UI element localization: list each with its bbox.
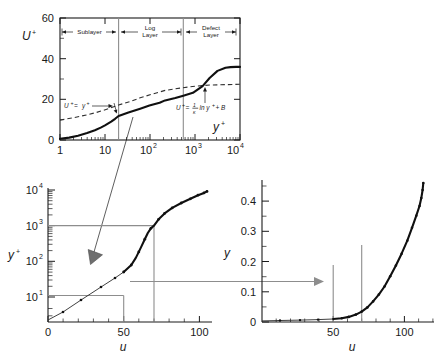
svg-text:10: 10 bbox=[26, 255, 38, 267]
svg-text:+: + bbox=[87, 100, 90, 106]
bl-ytick-label-10e1: 10 1 bbox=[26, 289, 43, 303]
bl-x-axis-label: u bbox=[120, 340, 127, 354]
svg-text:1: 1 bbox=[57, 144, 63, 156]
svg-text:4: 4 bbox=[39, 182, 43, 189]
svg-text:+ B: + B bbox=[216, 104, 227, 111]
top-ytick-60: 60 bbox=[42, 12, 54, 24]
svg-text:10: 10 bbox=[140, 144, 152, 156]
region-label-defect-layer-line2: Layer bbox=[203, 31, 218, 38]
top-panel-group: 0 20 40 60 U + bbox=[22, 12, 244, 156]
br-x-axis-label: u bbox=[349, 340, 356, 354]
bottom-right-panel-group: 0 0.1 0.2 0.3 0.4 y 50 100 u bbox=[223, 180, 434, 354]
svg-text:10: 10 bbox=[99, 144, 111, 156]
annotation-viscous-sublayer: U + = y + bbox=[64, 100, 117, 114]
region-label-log-layer-line2: Layer bbox=[142, 31, 157, 38]
top-y-axis-sup: + bbox=[32, 29, 36, 36]
br-profile-curve bbox=[333, 183, 423, 319]
br-ytick-02: 0.2 bbox=[241, 256, 256, 268]
region-label-defect-layer-line1: Defect bbox=[202, 24, 220, 31]
top-x-axis-letter: y bbox=[212, 120, 220, 134]
region-label-sublayer: Sublayer bbox=[77, 28, 101, 35]
svg-text:=: = bbox=[74, 102, 78, 109]
region-label-log-layer-line1: Log bbox=[145, 24, 156, 31]
top-xtick-label-100: 10 2 bbox=[140, 142, 157, 156]
br-y-axis-label: y bbox=[223, 246, 231, 260]
bl-y-axis-label: y + bbox=[7, 248, 20, 262]
top-y-axis-letter: U bbox=[22, 29, 31, 43]
bl-y-axis-letter: y bbox=[7, 248, 15, 262]
top-xtick-label-1: 1 bbox=[57, 144, 63, 156]
svg-text:1: 1 bbox=[39, 289, 43, 296]
br-xtick-100: 100 bbox=[395, 326, 413, 338]
bl-xtick-0: 0 bbox=[45, 326, 51, 338]
bl-y-axis-sup: + bbox=[16, 248, 20, 255]
br-y-ticks bbox=[262, 186, 269, 322]
br-ytick-04: 0.4 bbox=[241, 195, 256, 207]
figure-svg: 0 20 40 60 U + bbox=[0, 0, 441, 358]
bl-ytick-label-10e2: 10 2 bbox=[26, 253, 43, 267]
svg-text:10: 10 bbox=[227, 144, 239, 156]
svg-text:=: = bbox=[186, 104, 190, 111]
br-ytick-03: 0.3 bbox=[241, 225, 256, 237]
bl-ytick-label-10e3: 10 3 bbox=[26, 218, 43, 232]
svg-text:10: 10 bbox=[185, 144, 197, 156]
svg-text:1: 1 bbox=[193, 102, 196, 108]
svg-text:2: 2 bbox=[39, 253, 43, 260]
svg-text:3: 3 bbox=[39, 218, 43, 225]
figure-container: 0 20 40 60 U + bbox=[0, 0, 441, 358]
br-ytick-0: 0 bbox=[250, 316, 256, 328]
annotation-viscous-text: U bbox=[64, 102, 69, 109]
bottom-left-panel-group: 10 1 10 2 10 3 10 4 y + bbox=[7, 182, 212, 354]
svg-text:y: y bbox=[81, 102, 86, 110]
br-ytick-01: 0.1 bbox=[241, 286, 256, 298]
bl-y-ticks bbox=[48, 190, 55, 316]
bl-data-points bbox=[62, 190, 209, 313]
annotation-log-law-text: U bbox=[176, 104, 181, 111]
br-xtick-50: 50 bbox=[327, 326, 339, 338]
svg-text:10: 10 bbox=[26, 184, 38, 196]
top-ytick-20: 20 bbox=[42, 93, 54, 105]
top-ytick-40: 40 bbox=[42, 53, 54, 65]
svg-text:ln y: ln y bbox=[200, 104, 211, 112]
bl-profile-curve bbox=[124, 191, 207, 272]
bl-ytick-label-10e4: 10 4 bbox=[26, 182, 43, 196]
top-x-axis-sup: + bbox=[221, 120, 225, 127]
svg-text:κ: κ bbox=[193, 109, 196, 115]
br-profile-tail bbox=[262, 319, 333, 321]
top-xtick-exp-4: 4 bbox=[240, 142, 244, 149]
top-panel-y-axis-label: U + bbox=[22, 29, 36, 43]
bl-xtick-50: 50 bbox=[118, 326, 130, 338]
connector-arrow-horizontal bbox=[130, 277, 324, 286]
top-ytick-0: 0 bbox=[48, 134, 54, 146]
top-xtick-label-10: 10 bbox=[99, 144, 111, 156]
svg-text:10: 10 bbox=[26, 220, 38, 232]
top-xtick-exp-2: 2 bbox=[153, 142, 157, 149]
top-xtick-exp-3: 3 bbox=[198, 142, 202, 149]
top-panel-x-axis-label: y + bbox=[212, 120, 225, 134]
top-xtick-label-1000: 10 3 bbox=[185, 142, 202, 156]
svg-text:10: 10 bbox=[26, 291, 38, 303]
bl-xtick-100: 100 bbox=[190, 326, 208, 338]
top-xtick-label-10000: 10 4 bbox=[227, 142, 244, 156]
